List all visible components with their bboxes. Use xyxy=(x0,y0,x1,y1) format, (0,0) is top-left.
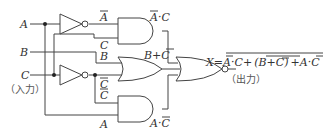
or-output-label: B+C xyxy=(143,49,174,62)
and2-output-label: A·C xyxy=(149,117,170,130)
output-equation: X=A·C+(B+C)+A·C xyxy=(205,53,323,69)
svg-text:X=A·C+(B+C)+A·C: X=A·C+(B+C)+A·C xyxy=(205,56,320,69)
junction-dot-c xyxy=(52,73,56,77)
not-a-label: A xyxy=(99,11,108,24)
not-gate-a xyxy=(60,14,88,34)
and1-output-label: A·C xyxy=(149,11,170,24)
input-label-c: C xyxy=(21,69,30,82)
svg-text:C: C xyxy=(100,89,109,102)
a-bottom-label: A xyxy=(99,118,108,131)
not-c-and-label: C xyxy=(100,89,109,102)
and-gate-1 xyxy=(118,18,153,44)
svg-text:A·C: A·C xyxy=(149,117,170,130)
and-gate-2 xyxy=(118,96,153,122)
junction-dot-a xyxy=(43,22,47,26)
input-label-b: B xyxy=(19,46,28,59)
svg-text:A: A xyxy=(99,11,108,24)
svg-text:A·C: A·C xyxy=(149,11,170,24)
svg-text:B+C: B+C xyxy=(143,49,170,62)
input-note-c: （入力） xyxy=(5,83,45,95)
output-note: （出力） xyxy=(226,73,266,85)
not-gate-c xyxy=(60,65,88,85)
b-or-label: B xyxy=(99,50,108,63)
input-label-a: A xyxy=(19,18,28,31)
junction-dot-not-c xyxy=(93,73,97,77)
logic-circuit-diagram: A B C （入力） xyxy=(0,0,325,135)
